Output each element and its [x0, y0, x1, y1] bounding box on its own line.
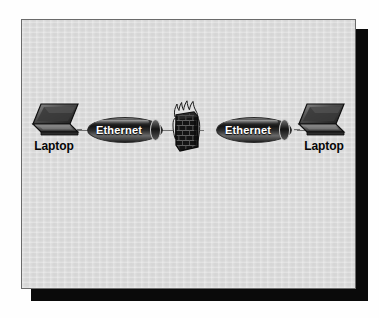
- diagram-panel: Laptop Ethernet: [21, 19, 356, 289]
- ethernet-segment-right[interactable]: Ethernet: [216, 117, 292, 143]
- laptop-icon-right[interactable]: [294, 102, 348, 140]
- laptop-left-label: Laptop: [22, 139, 86, 153]
- ethernet-end-cap-left: [150, 119, 161, 141]
- firewall-icon[interactable]: [168, 95, 204, 157]
- ethernet-end-cap-right: [279, 119, 290, 141]
- laptop-right-label: Laptop: [294, 139, 354, 153]
- laptop-icon-left[interactable]: [28, 102, 82, 140]
- diagram-stage: Laptop Ethernet: [0, 0, 379, 318]
- ethernet-right-label: Ethernet: [216, 117, 280, 143]
- ethernet-segment-left[interactable]: Ethernet: [87, 117, 163, 143]
- ethernet-left-label: Ethernet: [87, 117, 151, 143]
